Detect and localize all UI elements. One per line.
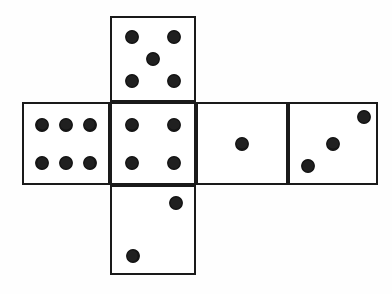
pip-icon: [125, 30, 138, 43]
pip-icon: [147, 53, 160, 66]
center-face: [110, 102, 196, 185]
pip-icon: [60, 118, 73, 131]
pip-icon: [302, 159, 315, 172]
pip-icon: [168, 118, 181, 131]
pip-icon: [125, 157, 138, 170]
pip-icon: [125, 75, 138, 88]
pip-icon: [236, 137, 249, 150]
right-inner-face: [196, 102, 288, 185]
pip-icon: [36, 118, 49, 131]
pip-icon: [83, 157, 96, 170]
pip-icon: [168, 30, 181, 43]
dice-net-diagram: [0, 0, 392, 294]
pip-icon: [357, 111, 370, 124]
pip-icon: [60, 157, 73, 170]
pip-icon: [126, 249, 139, 262]
pip-icon: [168, 75, 181, 88]
pip-icon: [36, 157, 49, 170]
pip-icon: [125, 118, 138, 131]
pip-icon: [168, 157, 181, 170]
pip-icon: [327, 137, 340, 150]
pip-icon: [83, 118, 96, 131]
bottom-face: [110, 185, 196, 275]
right-outer-face: [288, 102, 378, 185]
pip-icon: [169, 197, 182, 210]
left-face: [22, 102, 110, 185]
top-face: [110, 16, 196, 102]
